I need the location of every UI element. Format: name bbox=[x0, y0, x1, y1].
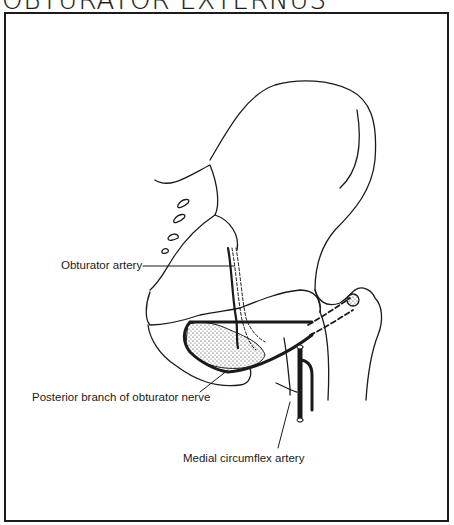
femoral-neck-dashed bbox=[308, 298, 350, 325]
sacral-foramen bbox=[168, 234, 178, 240]
sacral-foramen bbox=[178, 199, 189, 207]
sacrum-outline bbox=[155, 165, 238, 250]
pubis-outline bbox=[146, 292, 240, 325]
sacral-foramen bbox=[174, 214, 185, 222]
obturator-externus-muscle bbox=[186, 322, 265, 368]
label-posterior-branch-obturator-nerve: Posterior branch of obturator nerve bbox=[32, 391, 210, 403]
sacral-foramen bbox=[162, 249, 169, 254]
ilium-outline bbox=[210, 81, 376, 312]
femoral-head-insertion bbox=[347, 294, 359, 306]
iliac-crest-inner bbox=[340, 110, 359, 188]
label-obturator-artery: Obturator artery bbox=[61, 259, 142, 271]
leader-medial-circumflex bbox=[278, 402, 290, 448]
label-medial-circumflex-artery: Medial circumflex artery bbox=[183, 452, 304, 464]
femur-outline bbox=[355, 288, 382, 400]
